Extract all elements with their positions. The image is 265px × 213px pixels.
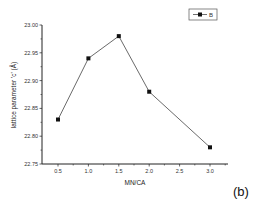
legend-square-marker-icon [198, 13, 202, 17]
panel-label: (b) [233, 184, 249, 199]
line-chart: 0.51.01.52.02.53.022.7522.8022.8522.9022… [0, 0, 265, 213]
data-series [56, 34, 212, 149]
x-axis-title: MN/CA [125, 179, 147, 186]
data-point-marker [86, 56, 90, 60]
y-tick-label: 22.95 [24, 50, 38, 56]
x-tick-label: 1.5 [115, 168, 123, 174]
data-point-marker [208, 145, 212, 149]
x-tick-label: 3.0 [206, 168, 214, 174]
y-tick-label: 22.90 [24, 78, 38, 84]
axis-ticks: 0.51.01.52.02.53.022.7522.8022.8522.9022… [24, 22, 225, 174]
legend-label: B [209, 12, 213, 18]
y-tick-label: 22.80 [24, 133, 38, 139]
x-tick-label: 1.0 [85, 168, 93, 174]
x-tick-label: 2.0 [145, 168, 153, 174]
x-tick-label: 2.5 [176, 168, 184, 174]
y-tick-label: 22.85 [24, 105, 38, 111]
y-axis-title: lattice parameter 'c' (Å) [9, 62, 18, 128]
data-point-marker [117, 34, 121, 38]
legend: B [189, 9, 217, 20]
data-point-marker [147, 90, 151, 94]
axes [42, 25, 228, 164]
data-point-marker [56, 118, 60, 122]
y-tick-label: 22.75 [24, 161, 38, 167]
x-tick-label: 0.5 [54, 168, 62, 174]
y-tick-label: 23.00 [24, 22, 38, 28]
series-line [58, 36, 210, 147]
